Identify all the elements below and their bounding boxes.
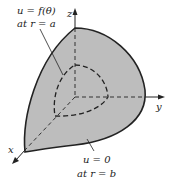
inner-boundary-condition: u = f(θ) xyxy=(17,5,56,17)
y-axis-arrowhead xyxy=(158,95,165,100)
inner-radius-text: at r = a xyxy=(17,18,56,29)
spherical-shell-diagram: u = f(θ) at r = a z y x u = 0 at r = b xyxy=(0,0,174,184)
inner-radius-label: at r = a xyxy=(17,18,56,30)
outer-radius-label: at r = b xyxy=(77,168,116,180)
z-axis-label: z xyxy=(67,8,72,20)
x-axis-outer xyxy=(16,150,25,160)
y-axis-label: y xyxy=(156,101,162,113)
outer-condition-equation: u = 0 xyxy=(83,154,111,165)
outer-sphere-surface xyxy=(25,28,146,152)
outer-radius-text: at r = b xyxy=(77,168,116,179)
z-axis-arrowhead xyxy=(73,8,78,15)
outer-boundary-condition: u = 0 xyxy=(83,154,111,166)
inner-condition-equation: u = f(θ) xyxy=(17,5,56,16)
x-axis-label: x xyxy=(8,144,14,156)
